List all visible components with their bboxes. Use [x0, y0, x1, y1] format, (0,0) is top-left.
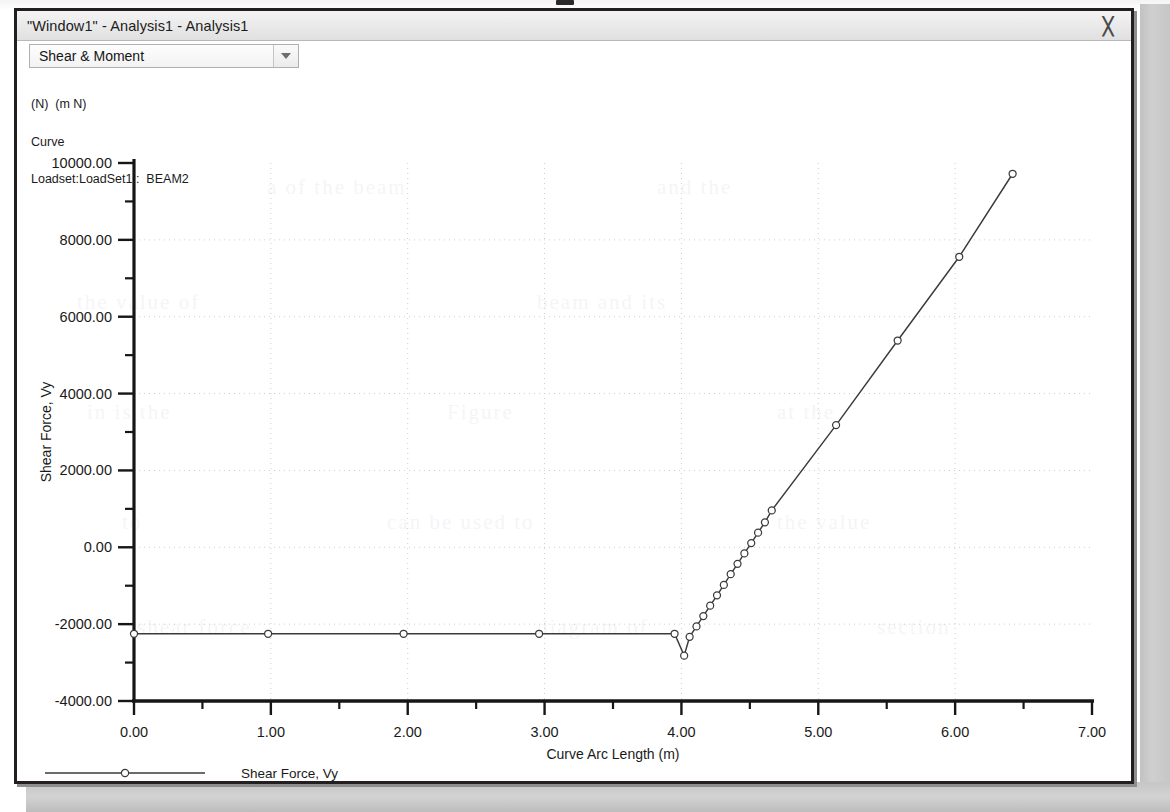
chart-area: a of the beamand thethe value ofbeam and…	[17, 115, 1131, 781]
data-point-marker	[833, 422, 840, 429]
series-line-shear-force-vy	[134, 174, 1013, 656]
x-tick-label: 3.00	[530, 724, 558, 740]
data-point-marker	[686, 633, 693, 640]
scan-artifact-mark	[556, 0, 574, 5]
y-tick-label: 8000.00	[60, 232, 112, 248]
y-tick-label: -4000.00	[55, 693, 112, 709]
data-point-marker	[681, 652, 688, 659]
data-point-marker	[734, 560, 741, 567]
plot-mode-select[interactable]: Shear & Moment	[29, 44, 299, 68]
page-root: "Window1" - Analysis1 - Analysis1 ╳ Shea…	[0, 0, 1170, 812]
x-tick-label: 6.00	[941, 724, 969, 740]
application-window: "Window1" - Analysis1 - Analysis1 ╳ Shea…	[14, 8, 1134, 784]
data-point-marker	[536, 630, 543, 637]
data-point-marker	[956, 253, 963, 260]
y-tick-label: 10000.00	[52, 155, 112, 171]
data-point-marker	[693, 623, 700, 630]
y-tick-label: 0.00	[84, 539, 112, 555]
data-point-marker	[727, 571, 734, 578]
data-point-marker	[400, 630, 407, 637]
data-point-marker	[131, 630, 138, 637]
data-point-marker	[1009, 170, 1016, 177]
legend-label-shear-force: Shear Force, Vy	[241, 766, 338, 781]
data-point-marker	[761, 519, 768, 526]
x-tick-label: 5.00	[804, 724, 832, 740]
y-axis-title: Shear Force, Vy	[38, 382, 54, 483]
x-tick-label: 4.00	[667, 724, 695, 740]
plot-mode-select-value: Shear & Moment	[30, 48, 273, 64]
data-point-marker	[768, 507, 775, 514]
plot-units-line: (N) (m N)	[31, 98, 189, 111]
chevron-down-icon[interactable]	[273, 45, 298, 67]
y-tick-label: 4000.00	[60, 386, 112, 402]
data-point-marker	[671, 630, 678, 637]
x-tick-label: 7.00	[1078, 724, 1106, 740]
data-point-marker	[707, 602, 714, 609]
y-tick-label: -2000.00	[55, 616, 112, 632]
window-title: "Window1" - Analysis1 - Analysis1	[17, 18, 249, 34]
data-point-marker	[755, 529, 762, 536]
shear-force-chart: -4000.00-2000.000.002000.004000.006000.0…	[17, 115, 1131, 781]
data-point-marker	[265, 630, 272, 637]
legend-line-marker	[45, 766, 205, 780]
data-point-marker	[741, 550, 748, 557]
y-tick-label: 2000.00	[60, 462, 112, 478]
chart-legend: Shear Force, Vy	[17, 759, 1131, 787]
y-tick-label: 6000.00	[60, 309, 112, 325]
title-bar: "Window1" - Analysis1 - Analysis1 ╳	[17, 11, 1131, 41]
data-point-marker	[700, 613, 707, 620]
data-point-marker	[894, 337, 901, 344]
x-tick-label: 0.00	[120, 724, 148, 740]
x-tick-label: 2.00	[394, 724, 422, 740]
toolbar: Shear & Moment	[17, 41, 1131, 71]
desktop-background-right	[1140, 4, 1170, 790]
close-icon[interactable]: ╳	[1097, 16, 1119, 36]
x-tick-label: 1.00	[257, 724, 285, 740]
data-point-marker	[720, 581, 727, 588]
data-point-marker	[748, 540, 755, 547]
data-point-marker	[714, 592, 721, 599]
